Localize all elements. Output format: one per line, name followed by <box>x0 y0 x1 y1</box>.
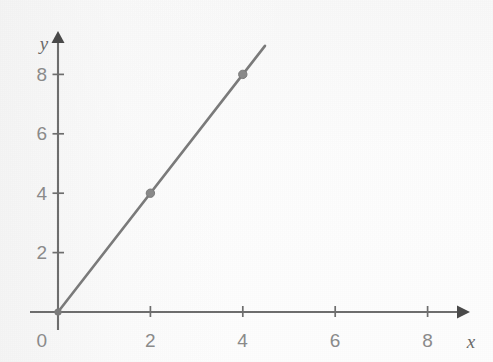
y-axis-label: y <box>38 33 49 54</box>
x-tick-label-8: 8 <box>422 330 433 351</box>
y-axis-tick-labels: 2 4 6 8 <box>37 64 48 263</box>
series-line <box>58 46 265 312</box>
x-axis-tick-labels: 2 4 6 8 <box>145 330 433 351</box>
origin-label: 0 <box>37 330 48 351</box>
data-point-marker-origin <box>54 308 61 315</box>
series-y-equals-2x <box>54 46 265 316</box>
axes-group <box>30 31 470 330</box>
x-tick-label-2: 2 <box>145 330 156 351</box>
x-axis-arrowhead <box>457 306 470 319</box>
line-chart-canvas: 2 4 6 8 2 4 6 8 0 y x <box>0 0 493 362</box>
y-axis-arrowhead <box>52 31 65 43</box>
x-tick-label-4: 4 <box>237 330 248 351</box>
x-tick-label-6: 6 <box>330 330 341 351</box>
data-point-marker-4-8 <box>239 70 247 78</box>
y-tick-label-2: 2 <box>37 242 48 263</box>
y-tick-label-4: 4 <box>37 183 48 204</box>
y-tick-label-6: 6 <box>37 123 48 144</box>
data-point-marker-2-4 <box>146 189 154 197</box>
x-axis-label: x <box>466 331 476 352</box>
chart-figure: 2 4 6 8 2 4 6 8 0 y x <box>0 0 493 362</box>
y-tick-label-8: 8 <box>37 64 48 85</box>
